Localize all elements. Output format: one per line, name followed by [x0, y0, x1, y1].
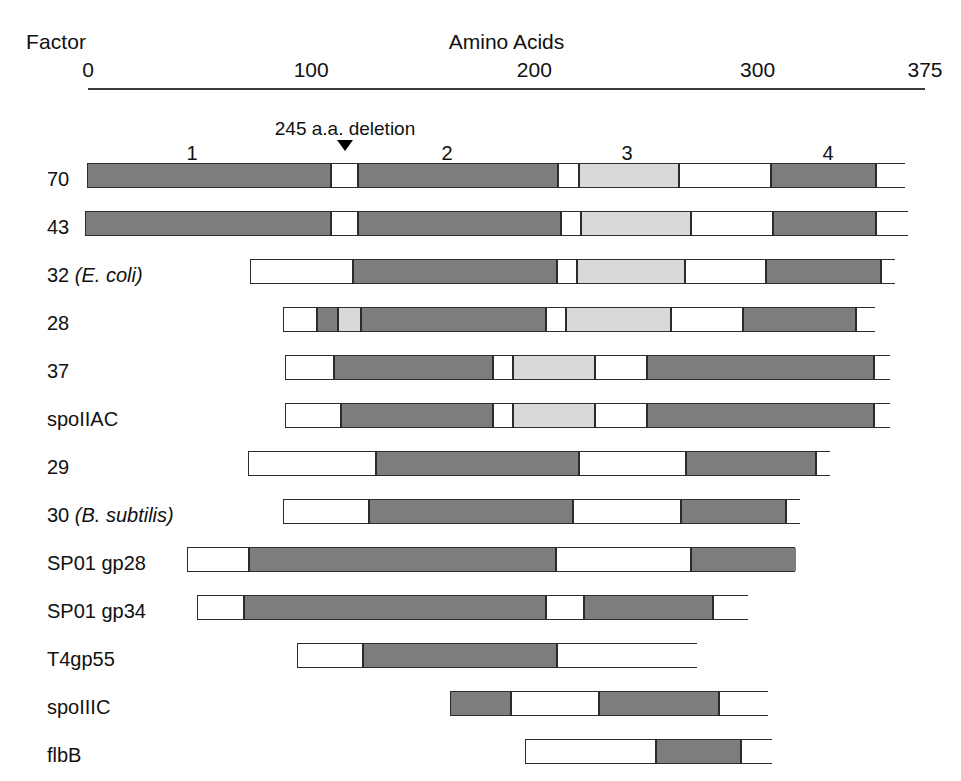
- domain-segment-white: [493, 404, 513, 427]
- domain-segment-white: [671, 308, 743, 331]
- domain-bar-sp01-gp34: [197, 595, 748, 620]
- domain-bar-43: [85, 211, 908, 236]
- domain-segment-dark: [451, 692, 511, 715]
- axis-line: [88, 88, 925, 90]
- domain-segment-white: [188, 548, 249, 571]
- domain-bar-spoiiic: [450, 691, 768, 716]
- domain-segment-white: [556, 548, 691, 571]
- domain-segment-white: [741, 740, 773, 763]
- domain-segment-white: [526, 740, 656, 763]
- domain-segment-white: [876, 212, 909, 235]
- domain-segment-dark: [771, 164, 876, 187]
- domain-segment-light: [338, 308, 361, 331]
- domain-segment-white: [249, 452, 376, 475]
- domain-segment-white: [561, 212, 581, 235]
- domain-bar-t4gp55: [297, 643, 697, 668]
- domain-segment-dark: [656, 740, 741, 763]
- domain-segment-white: [331, 212, 358, 235]
- domain-bar-spoiiac: [285, 403, 890, 428]
- row-label-37: 37: [47, 360, 69, 383]
- row-factor-name: 32: [47, 264, 69, 286]
- domain-segment-dark: [766, 260, 881, 283]
- domain-bar-70: [87, 163, 905, 188]
- domain-segment-dark: [686, 452, 816, 475]
- row-factor-name: 29: [47, 456, 69, 478]
- domain-segment-dark: [743, 308, 856, 331]
- domain-bar-sp01-gp28: [187, 547, 795, 572]
- domain-segment-white: [874, 404, 891, 427]
- domain-segment-white: [251, 260, 353, 283]
- domain-bar-32: [250, 259, 895, 284]
- domain-segment-white: [284, 500, 369, 523]
- row-factor-name: 37: [47, 360, 69, 382]
- domain-segment-white: [874, 356, 891, 379]
- domain-segment-white: [595, 404, 647, 427]
- row-factor-name: SP01 gp34: [47, 600, 146, 622]
- row-factor-name: spoIIAC: [47, 408, 118, 430]
- domain-segment-dark: [317, 308, 338, 331]
- row-label-spoiiic: spoIIIC: [47, 696, 110, 719]
- domain-segment-white: [558, 164, 579, 187]
- row-factor-name: SP01 gp28: [47, 552, 146, 574]
- domain-segment-white: [557, 260, 577, 283]
- axis-tick-100: 100: [294, 58, 329, 82]
- domain-segment-dark: [647, 404, 874, 427]
- domain-segment-white: [679, 164, 771, 187]
- region-number-4: 4: [822, 142, 833, 165]
- row-factor-name: flbB: [47, 744, 81, 766]
- domain-segment-white: [286, 404, 341, 427]
- domain-segment-light: [579, 164, 679, 187]
- axis-tick-300: 300: [740, 58, 775, 82]
- domain-segment-white: [286, 356, 334, 379]
- row-label-43: 43: [47, 216, 69, 239]
- domain-segment-dark: [691, 548, 796, 571]
- domain-segment-dark: [244, 596, 546, 619]
- row-factor-name: 70: [47, 168, 69, 190]
- domain-segment-dark: [86, 212, 331, 235]
- row-label-32: 32 (E. coli): [47, 264, 143, 287]
- domain-segment-white: [573, 500, 681, 523]
- domain-segment-dark: [369, 500, 573, 523]
- row-label-sp01-gp34: SP01 gp34: [47, 600, 146, 623]
- domain-bar-37: [285, 355, 890, 380]
- axis-tick-0: 0: [82, 58, 94, 82]
- domain-segment-white: [557, 644, 698, 667]
- domain-segment-white: [595, 356, 647, 379]
- axis-tick-200: 200: [517, 58, 552, 82]
- row-factor-name: 28: [47, 312, 69, 334]
- domain-segment-dark: [341, 404, 493, 427]
- domain-bar-28: [283, 307, 875, 332]
- row-species-name: (E. coli): [75, 264, 143, 286]
- region-number-3: 3: [621, 142, 632, 165]
- row-label-29: 29: [47, 456, 69, 479]
- row-factor-name: T4gp55: [47, 648, 115, 670]
- row-label-70: 70: [47, 168, 69, 191]
- domain-segment-white: [511, 692, 599, 715]
- domain-segment-white: [284, 308, 317, 331]
- domain-segment-dark: [358, 164, 558, 187]
- row-factor-name: spoIIIC: [47, 696, 110, 718]
- domain-segment-dark: [584, 596, 713, 619]
- row-label-sp01-gp28: SP01 gp28: [47, 552, 146, 575]
- domain-segment-light: [513, 356, 595, 379]
- domain-segment-light: [581, 212, 691, 235]
- row-label-28: 28: [47, 312, 69, 335]
- domain-segment-dark: [376, 452, 579, 475]
- domain-segment-white: [691, 212, 773, 235]
- domain-segment-dark: [249, 548, 556, 571]
- domain-segment-white: [493, 356, 513, 379]
- domain-segment-light: [566, 308, 671, 331]
- domain-bar-30: [283, 499, 800, 524]
- domain-segment-white: [298, 644, 363, 667]
- domain-segment-white: [685, 260, 766, 283]
- domain-segment-white: [546, 596, 584, 619]
- domain-bar-flbb: [525, 739, 772, 764]
- domain-segment-dark: [681, 500, 786, 523]
- domain-segment-white: [719, 692, 769, 715]
- domain-segment-dark: [647, 356, 874, 379]
- sigma-factor-domain-diagram: Factor Amino Acids 0100200300375 245 a.a…: [0, 0, 961, 781]
- row-species-name: (B. subtilis): [75, 504, 174, 526]
- domain-bar-29: [248, 451, 830, 476]
- domain-segment-dark: [599, 692, 719, 715]
- domain-segment-dark: [361, 308, 546, 331]
